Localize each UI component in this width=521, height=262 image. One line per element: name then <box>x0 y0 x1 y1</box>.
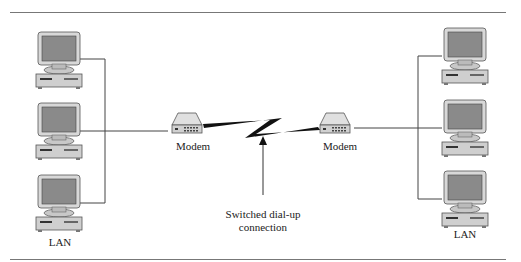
dial-up-link-bolt <box>203 118 320 138</box>
link-caption: Switched dial-up connection <box>213 208 313 234</box>
left-lan-wiring <box>80 59 168 203</box>
right-modem-icon <box>320 113 350 133</box>
left-modem-label: Modem <box>168 140 218 152</box>
link-caption-line-2: connection <box>213 221 313 234</box>
right-computer-1 <box>442 28 488 85</box>
link-caption-line-1: Switched dial-up <box>213 208 313 221</box>
left-modem-icon <box>172 113 202 133</box>
right-computer-3 <box>442 171 488 228</box>
right-modem-label: Modem <box>315 140 365 152</box>
left-computer-2 <box>36 103 82 160</box>
right-computer-2 <box>442 100 488 157</box>
right-lan-label: LAN <box>444 228 486 240</box>
left-computer-3 <box>36 175 82 232</box>
arrow-head-icon <box>259 136 267 145</box>
left-lan-label: LAN <box>40 236 80 248</box>
right-lan-wiring <box>354 56 442 199</box>
left-computer-1 <box>36 32 82 89</box>
